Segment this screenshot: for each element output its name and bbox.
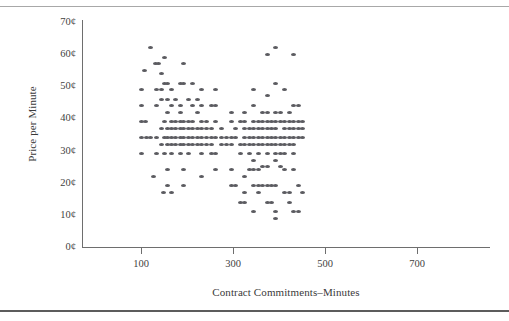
data-point-marker [229, 168, 234, 171]
data-point-marker [296, 104, 301, 107]
x-axis-title: Contract Commitments–Minutes [82, 286, 490, 298]
data-point-marker [169, 88, 174, 91]
data-point-marker [291, 53, 296, 56]
data-point-marker [169, 152, 174, 155]
data-point-marker [265, 53, 270, 56]
data-point-marker [265, 152, 270, 155]
data-point-marker [287, 191, 292, 194]
data-point-marker [251, 88, 256, 91]
data-point-marker [139, 152, 144, 155]
data-point-marker [199, 152, 204, 155]
data-point-marker [151, 175, 156, 178]
data-point-marker [291, 152, 296, 155]
data-point-marker [199, 104, 204, 107]
data-point-marker [162, 120, 167, 123]
data-point-marker [256, 191, 261, 194]
data-point-marker [199, 175, 204, 178]
data-point-marker [195, 111, 200, 114]
y-axis-title: Price per Minute [26, 44, 38, 204]
data-point-marker [165, 111, 170, 114]
data-point-marker [154, 136, 159, 139]
data-point-marker [287, 201, 292, 204]
data-point-marker [213, 104, 218, 107]
data-point-marker [282, 152, 287, 155]
data-point-marker [273, 217, 278, 220]
data-point-marker [169, 104, 174, 107]
data-point-marker [229, 143, 234, 146]
data-point-marker [242, 191, 247, 194]
data-point-marker [300, 136, 305, 139]
data-point-marker [178, 104, 183, 107]
data-point-marker [159, 72, 164, 75]
data-point-marker [148, 46, 153, 49]
data-point-marker [161, 191, 166, 194]
data-point-marker [165, 184, 170, 187]
data-point-marker [209, 143, 214, 146]
data-point-marker [273, 46, 278, 49]
data-point-marker [256, 168, 261, 171]
scatter-chart-figure: 0¢10¢20¢30¢40¢50¢60¢70¢ 100300500700 Pri… [0, 0, 509, 321]
data-point-marker [300, 127, 305, 130]
data-point-marker [269, 201, 274, 204]
data-point-marker [242, 175, 247, 178]
data-point-marker [181, 82, 186, 85]
data-point-marker [233, 136, 238, 139]
data-point-marker [190, 104, 195, 107]
data-point-marker [181, 168, 186, 171]
data-point-marker [162, 56, 167, 59]
data-point-marker [181, 184, 186, 187]
data-point-marker [165, 98, 170, 101]
data-point-marker [265, 94, 270, 97]
data-point-marker [291, 143, 296, 146]
plot-area-markers [0, 0, 509, 321]
data-point-marker [229, 120, 234, 123]
data-point-marker [213, 152, 218, 155]
data-point-marker [219, 127, 224, 130]
data-point-marker [213, 88, 218, 91]
data-point-marker [159, 127, 164, 130]
data-point-marker [265, 165, 270, 168]
data-point-marker [139, 104, 144, 107]
data-point-marker [242, 111, 247, 114]
data-point-marker [181, 62, 186, 65]
data-point-marker [186, 98, 191, 101]
data-point-marker [265, 111, 270, 114]
data-point-marker [213, 136, 218, 139]
data-point-marker [142, 69, 147, 72]
data-point-marker [169, 191, 174, 194]
data-point-marker [242, 201, 247, 204]
data-point-marker [287, 111, 292, 114]
page-rule-bottom [0, 310, 509, 312]
data-point-marker [204, 120, 209, 123]
data-point-marker [165, 168, 170, 171]
data-point-marker [148, 136, 153, 139]
data-point-marker [291, 168, 296, 171]
data-point-marker [156, 62, 161, 65]
data-point-marker [139, 136, 144, 139]
data-point-marker [162, 152, 167, 155]
data-point-marker [256, 152, 261, 155]
data-point-marker [190, 120, 195, 123]
data-point-marker [213, 168, 218, 171]
data-point-marker [154, 152, 159, 155]
data-point-marker [199, 88, 204, 91]
data-point-marker [251, 104, 256, 107]
data-point-marker [178, 152, 183, 155]
data-point-marker [282, 88, 287, 91]
data-point-marker [154, 104, 159, 107]
data-point-marker [209, 127, 214, 130]
data-point-marker [282, 168, 287, 171]
data-point-marker [233, 184, 238, 187]
data-point-marker [139, 88, 144, 91]
data-point-marker [165, 82, 170, 85]
data-point-marker [213, 120, 218, 123]
data-point-marker [278, 111, 283, 114]
data-point-marker [251, 159, 256, 162]
data-point-marker [173, 98, 178, 101]
data-point-marker [186, 152, 191, 155]
data-point-marker [233, 127, 238, 130]
data-point-marker [247, 152, 252, 155]
data-point-marker [273, 184, 278, 187]
data-point-marker [296, 184, 301, 187]
data-point-marker [143, 120, 148, 123]
